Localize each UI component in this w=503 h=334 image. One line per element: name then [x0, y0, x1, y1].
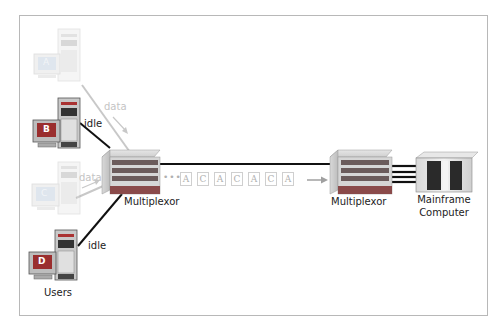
- mainframe-links: [392, 166, 416, 182]
- terminal-d-icon: [29, 230, 77, 280]
- packet-stream: A C A C A C A: [180, 172, 294, 186]
- packet: C: [197, 172, 209, 186]
- users-label: Users: [44, 287, 72, 298]
- link-c-label: data: [79, 172, 102, 183]
- terminal-b-icon: [33, 98, 80, 148]
- terminal-c-icon: [32, 162, 80, 214]
- packet: A: [248, 172, 260, 186]
- terminal-a-label: A: [43, 57, 49, 67]
- multiplexor-left-icon: [102, 150, 160, 194]
- mainframe-icon: [416, 152, 478, 192]
- link-a-label: data: [104, 101, 127, 112]
- terminal-a-icon: [34, 29, 80, 81]
- mainframe-label-line1: Mainframe: [412, 194, 476, 205]
- multiplexor-right-icon: [330, 150, 392, 194]
- packet: C: [231, 172, 243, 186]
- link-d-label: idle: [88, 240, 106, 251]
- terminal-d-label: D: [38, 256, 45, 266]
- terminal-b-label: B: [43, 124, 50, 134]
- packet: A: [214, 172, 226, 186]
- stream-arrow-icon: [307, 177, 328, 184]
- terminal-c-label: C: [41, 188, 47, 198]
- multiplexor-left-label: Multiplexor: [124, 196, 179, 207]
- multiplexor-right-label: Multiplexor: [331, 196, 386, 207]
- packet: A: [180, 172, 192, 186]
- mainframe-label-line2: Computer: [412, 207, 476, 218]
- diagram-canvas: [0, 0, 503, 334]
- packet: A: [282, 172, 294, 186]
- link-d: [78, 194, 122, 246]
- packet: C: [265, 172, 277, 186]
- link-b-label: idle: [84, 118, 102, 129]
